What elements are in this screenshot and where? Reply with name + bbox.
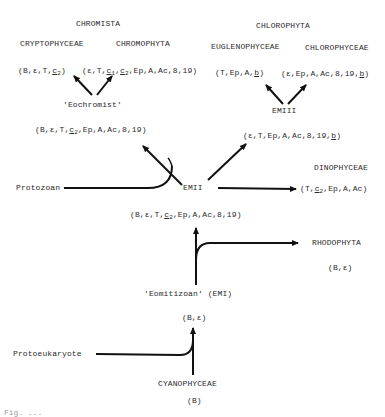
node-protoeukaryote: Protoeukaryote (13, 349, 82, 359)
pigments-emii-left: (B,ε,T,c2,Ep,A,Ac,8,19) (35, 125, 147, 138)
node-protozoan: Protozoan (16, 183, 60, 193)
node-emii: EMII (183, 183, 203, 193)
class-cryptophyceae: CRYPTOPHYCEAE (20, 39, 84, 49)
class-chromophyta: CHROMOPHYTA (116, 39, 170, 49)
class-euglenophyceae: EUGLENOPHYCEAE (211, 42, 280, 52)
group-chlorophyta: CHLOROPHYTA (256, 21, 310, 31)
node-eomitizoan: 'Eomitizoan' (EMI) (144, 289, 232, 299)
line-protoeukaryote-join (96, 340, 193, 355)
pigments-dinophyceae: (T,c2,Ep,A,Ac) (300, 184, 367, 197)
pigments-emii-right: (ε,T,Ep,A,Ac,8,19,b) (243, 131, 341, 141)
arrow-emii-to-right-set (208, 144, 246, 180)
pigments-cryptophyceae: (B,ε,T,c2) (18, 66, 66, 79)
pigments-chromophyta: (ε,T,c1,c2,Ep,A,Ac,8,19) (82, 66, 197, 79)
pigments-protoeukaryote-product: (B,ε) (182, 313, 207, 323)
class-dinophyceae: DINOPHYCEAE (314, 163, 368, 173)
class-cyanophyceae: CYANOPHYCEAE (158, 379, 217, 389)
figure-caption-partial: Fig. ... (4, 408, 42, 417)
arrow-emiii-to-euglenophyceae (266, 85, 283, 104)
pigments-rhodophyta: (B,ε) (328, 263, 353, 273)
arrow-emi-to-rhodophyta (196, 243, 298, 260)
pigments-emi-up: (B,ε,T,c2,Ep,A,Ac,8,19) (130, 210, 242, 223)
arrow-emii-to-dinophyceae (218, 188, 296, 189)
pigments-cyanophyceae: (B) (187, 396, 202, 406)
arrow-emii-to-left-set (143, 146, 182, 185)
node-emiii: EMIII (272, 106, 297, 116)
group-chromista: CHROMISTA (76, 19, 120, 29)
pigments-chlorophyceae: (ε,Ep,A,Ac,8,19,b) (281, 69, 369, 79)
arrow-emiii-to-chlorophyceae (288, 85, 306, 104)
class-chlorophyceae: CHLOROPHYCEAE (305, 43, 369, 53)
node-eochromist: 'Eochromist' (63, 100, 122, 110)
class-rhodophyta: RHODOPHYTA (312, 238, 361, 248)
line-protozoan-join (64, 166, 172, 188)
pigments-euglenophyceae: (T,Ep,A,b) (215, 68, 264, 78)
